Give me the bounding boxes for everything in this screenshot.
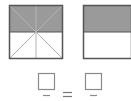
equation (39, 74, 102, 97)
left-fraction-model (9, 5, 63, 59)
fraction-diagram (0, 0, 131, 101)
right-shaded-half (83, 5, 131, 32)
right-numerator-box[interactable] (86, 74, 102, 90)
right-fraction-model (83, 5, 131, 59)
left-numerator-box[interactable] (39, 74, 55, 90)
right-unshaded-half (83, 32, 131, 59)
